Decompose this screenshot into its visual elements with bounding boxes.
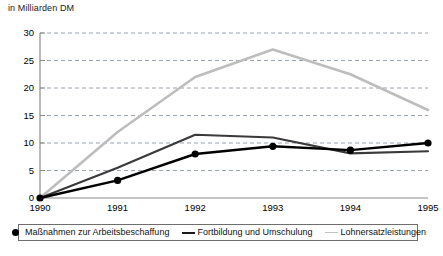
legend-label-lohnersatzleistungen: Lohnersatzleistungen (340, 227, 426, 238)
data-point-marker (192, 150, 199, 157)
y-tick-20: 20 (8, 83, 34, 93)
data-point-marker (269, 143, 276, 150)
y-tick-30: 30 (8, 28, 34, 38)
y-tick-5: 5 (8, 166, 34, 176)
x-tick-1991: 1991 (98, 202, 138, 214)
data-point-marker (114, 177, 121, 184)
x-tick-1994: 1994 (330, 202, 370, 214)
y-tick-25: 25 (8, 56, 34, 66)
legend-entry-massnahmen-zur-arbeitsbeschaffung[interactable]: Maßnahmen zur Arbeitsbeschaffung (10, 227, 169, 238)
data-point-marker (36, 194, 43, 201)
y-tick-10: 10 (8, 138, 34, 148)
x-tick-1992: 1992 (175, 202, 215, 214)
series-line-fortbildung-und-umschulung (40, 135, 428, 198)
y-axis-ticks (40, 33, 45, 171)
x-tick-1995: 1995 (408, 202, 443, 214)
data-point-marker (347, 147, 354, 154)
legend-label-massnahmen-zur-arbeitsbeschaffung: Maßnahmen zur Arbeitsbeschaffung (25, 227, 169, 238)
y-axis-tick-labels: 30 25 20 15 10 5 0 (4, 33, 34, 198)
legend-label-fortbildung-und-umschulung: Fortbildung und Umschulung (197, 227, 312, 238)
solid-line-marker-icon (182, 228, 195, 237)
legend-entry-lohnersatzleistungen[interactable]: Lohnersatzleistungen (325, 227, 426, 238)
x-tick-1993: 1993 (253, 202, 293, 214)
plot-area (40, 33, 428, 198)
plot-canvas (40, 33, 428, 198)
chart-axis-unit-title: in Milliarden DM (8, 3, 74, 14)
x-tick-1990: 1990 (20, 202, 60, 214)
chart-legend: Maßnahmen zur Arbeitsbeschaffung Fortbil… (18, 224, 418, 241)
data-point-marker (424, 139, 431, 146)
light-line-marker-icon (325, 228, 338, 237)
x-axis-tick-labels: 1990 1991 1992 1993 1994 1995 (40, 202, 428, 216)
y-tick-15: 15 (8, 111, 34, 121)
filled-circle-marker-icon (10, 228, 23, 237)
legend-entry-fortbildung-und-umschulung[interactable]: Fortbildung und Umschulung (182, 227, 312, 238)
